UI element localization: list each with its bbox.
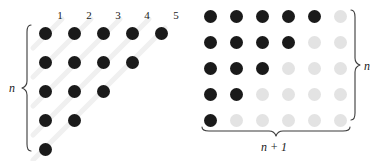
right-diagram: n n + 1 <box>190 0 380 161</box>
left-diagram: 1 2 3 4 5 n <box>0 0 190 161</box>
bottom-brace-label: n + 1 <box>261 141 287 153</box>
figure-canvas: 1 2 3 4 5 n <box>0 0 380 161</box>
left-brace-label: n <box>9 82 15 94</box>
left-brace <box>0 0 190 161</box>
bottom-brace <box>190 0 380 161</box>
